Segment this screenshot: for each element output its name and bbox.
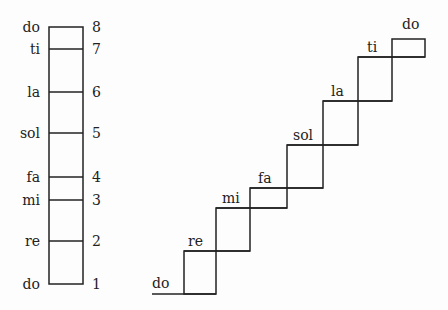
diagram-canvas: do ti la sol fa mi re do 8 7 6 5 4 3 2 1… xyxy=(0,0,448,310)
note-label: mi xyxy=(22,192,40,208)
scale-column xyxy=(49,27,83,284)
degree-number: 3 xyxy=(92,192,101,208)
step-label: do xyxy=(402,16,419,32)
step-label: la xyxy=(331,83,344,99)
step-label: sol xyxy=(293,127,314,143)
degree-number: 2 xyxy=(92,233,101,249)
degree-number: 4 xyxy=(92,169,101,185)
step-label: re xyxy=(188,233,203,249)
degree-number: 7 xyxy=(92,41,101,57)
note-label: la xyxy=(27,84,40,100)
note-label: do xyxy=(23,276,40,292)
degree-number: 6 xyxy=(92,84,101,100)
step-label: fa xyxy=(258,170,272,186)
note-label: re xyxy=(25,233,40,249)
step-label: do xyxy=(152,275,169,291)
note-label: do xyxy=(23,19,40,35)
solfege-diagram: do ti la sol fa mi re do 8 7 6 5 4 3 2 1… xyxy=(0,0,448,310)
scale-column-labels: do ti la sol fa mi re do 8 7 6 5 4 3 2 1 xyxy=(20,19,101,292)
step-label: ti xyxy=(367,39,378,55)
degree-number: 1 xyxy=(92,276,101,292)
note-label: fa xyxy=(26,169,40,185)
degree-number: 5 xyxy=(92,125,101,141)
scale-column-box xyxy=(49,27,83,284)
staircase xyxy=(152,39,425,294)
step-label: mi xyxy=(222,190,240,206)
degree-number: 8 xyxy=(92,19,101,35)
note-label: sol xyxy=(20,125,41,141)
note-label: ti xyxy=(30,41,41,57)
